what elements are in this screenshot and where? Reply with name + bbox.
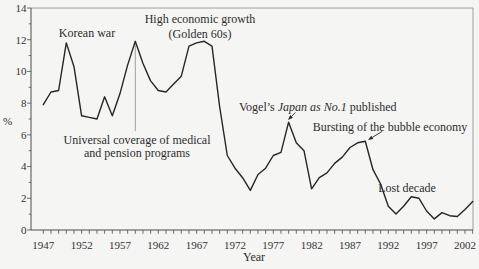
annotation-line-2: and pension programs — [64, 147, 211, 160]
y-tick-label: 2 — [21, 192, 27, 204]
annotation-line-2: (Golden 60s) — [145, 27, 256, 42]
x-tick-label: 1952 — [71, 239, 93, 251]
x-tick-label: 1947 — [32, 239, 55, 251]
x-tick-label: 1957 — [109, 239, 132, 251]
y-tick-label: 14 — [16, 2, 28, 14]
y-axis-unit-label: % — [3, 114, 12, 128]
x-axis-title: Year — [243, 250, 265, 264]
y-tick-label: 4 — [21, 160, 27, 172]
x-tick-label: 2002 — [454, 239, 476, 251]
x-tick-label: 1987 — [339, 239, 362, 251]
y-tick-label: 6 — [21, 129, 27, 141]
annotation-high-economic-growth: High economic growth (Golden 60s) — [145, 12, 256, 42]
x-tick-label: 1977 — [262, 239, 285, 251]
annotation-korean-war: Korean war — [59, 26, 115, 40]
y-tick-label: 8 — [21, 97, 27, 109]
annotation-text: Vogel’s — [239, 100, 278, 114]
y-axis-tick-labels: 02468101214 — [16, 2, 28, 236]
y-tick-label: 12 — [16, 34, 27, 46]
y-axis-ticks — [27, 8, 31, 230]
annotation-vogel-japan-as-no1: Vogel’s Japan as No.1 published — [239, 100, 396, 114]
annotation-bubble-economy: Bursting of the bubble economy — [313, 120, 468, 134]
japan-economic-growth-figure: 1947195219571962196719721977198219871992… — [0, 0, 479, 269]
annotation-lost-decade: Lost decade — [378, 181, 436, 195]
y-tick-label: 0 — [21, 224, 27, 236]
y-tick-label: 10 — [16, 65, 28, 77]
annotation-text-italic: Japan as No.1 — [278, 100, 347, 114]
x-tick-label: 1992 — [377, 239, 399, 251]
x-axis-ticks — [43, 230, 472, 234]
x-tick-label: 1982 — [301, 239, 323, 251]
x-tick-label: 1997 — [416, 239, 439, 251]
x-tick-label: 1962 — [147, 239, 169, 251]
x-axis-tick-labels: 1947195219571962196719721977198219871992… — [32, 239, 476, 251]
x-tick-label: 1972 — [224, 239, 246, 251]
x-tick-label: 1967 — [186, 239, 209, 251]
annotation-text: published — [347, 100, 397, 114]
annotation-line-1: High economic growth — [145, 12, 256, 27]
annotation-universal-coverage: Universal coverage of medical and pensio… — [64, 134, 211, 160]
